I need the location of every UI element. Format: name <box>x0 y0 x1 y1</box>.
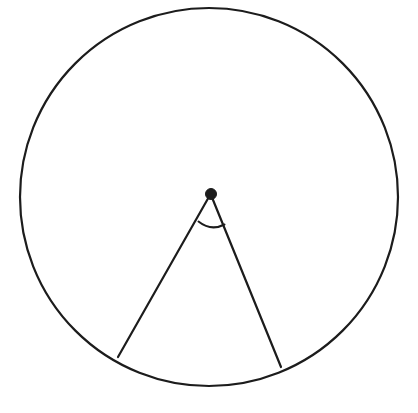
radius-left-line <box>118 195 210 357</box>
geometry-diagram <box>0 0 418 413</box>
radius-right-line <box>211 195 281 367</box>
center-point-dot <box>206 189 217 200</box>
central-angle-arc <box>199 222 225 228</box>
figure-canvas <box>0 0 418 413</box>
